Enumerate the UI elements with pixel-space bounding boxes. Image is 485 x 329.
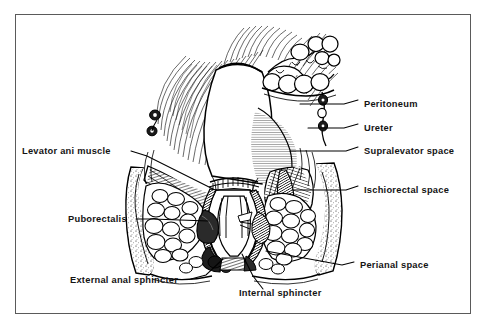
anatomy-figure-root: Peritoneum Ureter Supralevator space Isc… xyxy=(0,0,485,329)
figure-border-frame xyxy=(15,14,471,314)
